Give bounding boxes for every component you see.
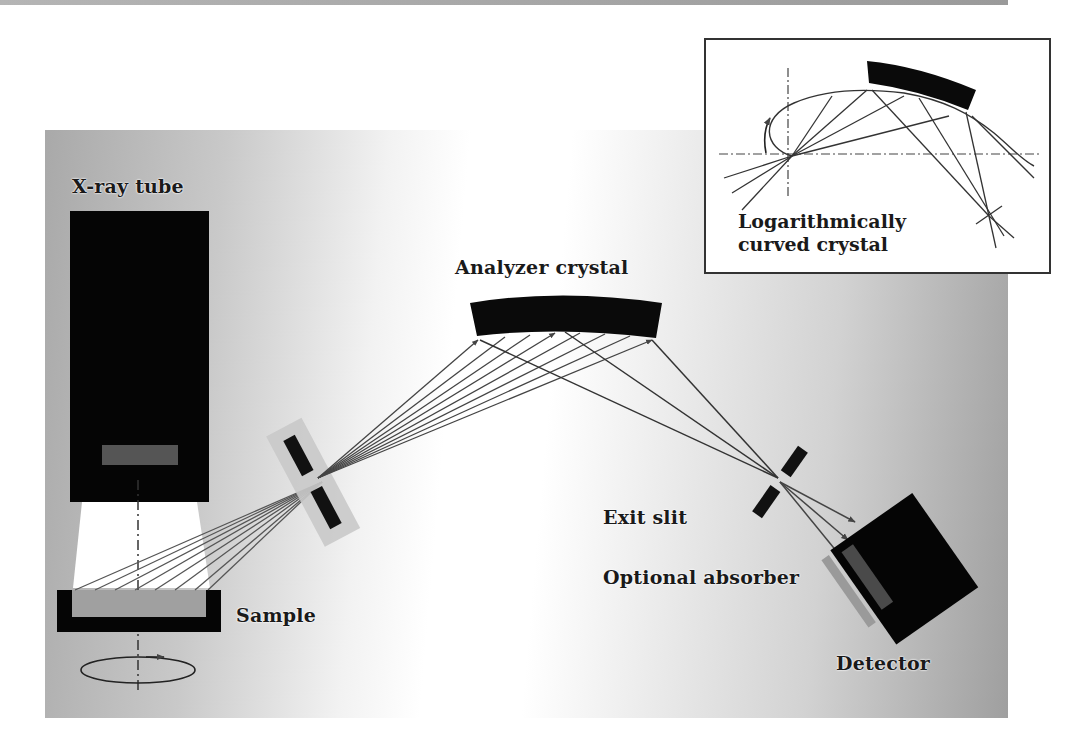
- inset-caption-line2: curved crystal: [738, 233, 906, 256]
- label-sample: Sample: [236, 604, 316, 626]
- inset-caption-line1: Logarithmically: [738, 210, 906, 233]
- xray-tube: [70, 211, 209, 502]
- detector: [830, 493, 978, 645]
- detector-assembly: [820, 493, 979, 652]
- label-xray-tube: X-ray tube: [72, 175, 184, 197]
- label-detector: Detector: [836, 652, 930, 674]
- label-optional-absorber: Optional absorber: [603, 566, 799, 588]
- label-exit-slit: Exit slit: [603, 506, 687, 528]
- crystal-to-exit-rays: [480, 332, 778, 478]
- label-analyzer-crystal: Analyzer crystal: [455, 256, 628, 278]
- entrance-slit: [266, 418, 360, 547]
- inset-caption: Logarithmically curved crystal: [738, 210, 906, 256]
- slit-to-crystal-rays: [318, 333, 652, 478]
- inset-log-crystal: Logarithmically curved crystal: [704, 38, 1051, 274]
- analyzer-crystal: [470, 296, 662, 339]
- sample-holder: [57, 590, 221, 632]
